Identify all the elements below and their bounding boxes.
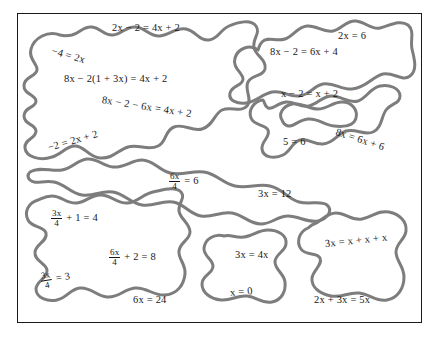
equation-5-equals-6: 5 = 6 [283, 136, 306, 147]
equation-tail: = 3 [55, 270, 71, 283]
fraction-denominator: 4 [51, 219, 62, 228]
equation-2x-minus-2: 2x − 2 = 4x + 2 [112, 22, 180, 33]
diagram-canvas: 2x − 2 = 4x + 2 −4 = 2x 8x − 2(1 + 3x) =… [0, 0, 439, 342]
equation-3x-equals-12: 3x = 12 [258, 188, 292, 199]
equation-2x-plus-3x-equals-5x: 2x + 3x = 5x [314, 294, 370, 305]
equation-8x-minus-2-paren: 8x − 2(1 + 3x) = 4x + 2 [64, 73, 168, 84]
equation-x-minus-2-equals-x-plus-2: x − 2 = x + 2 [281, 88, 338, 99]
equation-tail: + 1 = 4 [66, 212, 98, 223]
equation-6x-over-4-plus-2: 6x 4 + 2 = 8 [108, 248, 156, 268]
equation-3x-equals-4x: 3x = 4x [235, 249, 269, 260]
equation-6x-over-4-equals-6: 6x 4 = 6 [168, 172, 199, 192]
fraction-denominator: 4 [169, 182, 180, 191]
equation-2x-equals-6: 2x = 6 [338, 30, 366, 41]
equation-x-equals-0: x = 0 [230, 285, 254, 298]
fraction-3x-over-4: 3x 4 [39, 270, 54, 292]
fraction-6x-over-4: 6x 4 [169, 172, 180, 192]
fraction-3x-over-4: 3x 4 [51, 209, 62, 229]
equation-8x-minus-2-equals-6x-plus-4: 8x − 2 = 6x + 4 [270, 46, 338, 57]
equation-6x-equals-24: 6x = 24 [133, 294, 167, 305]
equation-tail: = 6 [184, 175, 198, 186]
blob-outline-right-inner-hook [281, 102, 357, 126]
equation-3x-over-4-plus-1: 3x 4 + 1 = 4 [50, 209, 98, 229]
fraction-6x-over-4: 6x 4 [109, 248, 120, 268]
fraction-denominator: 4 [109, 258, 120, 267]
fraction-denominator: 4 [41, 280, 54, 291]
equation-tail: + 2 = 8 [124, 251, 156, 262]
blob-outline-bottom-right [299, 212, 406, 301]
